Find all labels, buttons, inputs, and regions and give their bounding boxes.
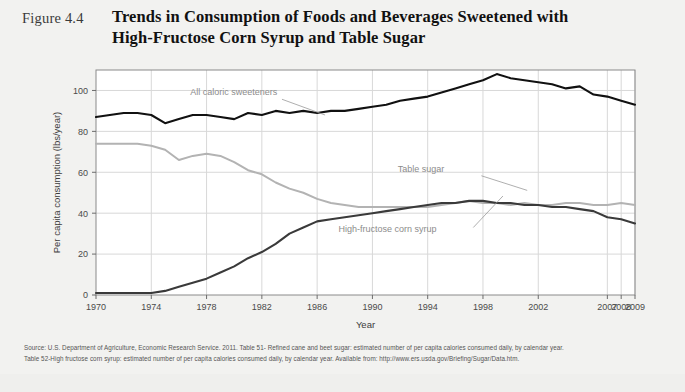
series-annotation: All caloric sweeteners — [190, 87, 278, 97]
y-axis-tick-label: 100 — [73, 86, 88, 96]
figure-title-line1: Trends in Consumption of Foods and Bever… — [112, 7, 568, 26]
x-axis-title: Year — [356, 319, 375, 330]
x-axis-tick-label: 1994 — [418, 302, 438, 312]
y-axis-tick-label: 0 — [83, 290, 88, 300]
y-axis-tick-label: 60 — [78, 168, 88, 178]
y-axis-tick-label: 20 — [78, 249, 88, 259]
x-axis-tick-label: 1990 — [362, 302, 382, 312]
source-line-1: Source: U.S. Department of Agriculture, … — [24, 342, 664, 353]
figure-header: Figure 4.4 Trends in Consumption of Food… — [0, 0, 685, 58]
x-axis-tick-label: 1974 — [141, 302, 161, 312]
source-line-2: Table 52-High fructose corn syrup: estim… — [24, 353, 664, 364]
x-axis-tick-label: 2009 — [625, 302, 645, 312]
x-axis-tick-label: 1998 — [473, 302, 493, 312]
figure-number: Figure 4.4 — [22, 10, 84, 27]
figure-title: Trends in Consumption of Foods and Bever… — [112, 6, 642, 48]
source-note: Source: U.S. Department of Agriculture, … — [24, 342, 664, 364]
chart-container: 0204060801001970197419781982198619901994… — [0, 56, 685, 336]
plot-background — [96, 70, 635, 295]
x-axis-tick-label: 1982 — [252, 302, 272, 312]
x-axis-tick-label: 1978 — [197, 302, 217, 312]
y-axis-tick-label: 40 — [78, 209, 88, 219]
figure-title-line2: High-Fructose Corn Syrup and Table Sugar — [112, 28, 425, 47]
x-axis-tick-label: 2002 — [528, 302, 548, 312]
line-chart: 0204060801001970197419781982198619901994… — [0, 56, 685, 336]
x-axis-tick-label: 1970 — [86, 302, 106, 312]
series-annotation: High-fructose corn syrup — [339, 224, 437, 234]
figure-page: Figure 4.4 Trends in Consumption of Food… — [0, 0, 685, 392]
footer-band — [0, 374, 685, 392]
series-annotation: Table sugar — [398, 164, 445, 174]
x-axis-tick-label: 1986 — [307, 302, 327, 312]
y-axis-tick-label: 80 — [78, 127, 88, 137]
y-axis-title: Per capita consumption (lbs/year) — [51, 112, 62, 254]
